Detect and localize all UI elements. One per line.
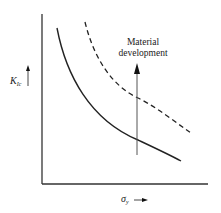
annotation-line-2: development [118, 48, 167, 58]
y-axis-label: KIc [9, 75, 22, 87]
diagram-canvas: Material development KIc σy [0, 0, 221, 213]
y-axis-label-sub: Ic [16, 81, 22, 87]
x-axis-label-sub: y [125, 199, 129, 205]
x-axis-label: σy [121, 193, 129, 205]
annotation-line-1: Material [127, 37, 160, 47]
y-axis-direction-arrow-icon [26, 65, 30, 71]
x-axis-direction-arrow-icon [142, 198, 148, 202]
development-arrow-head-icon [134, 63, 140, 74]
